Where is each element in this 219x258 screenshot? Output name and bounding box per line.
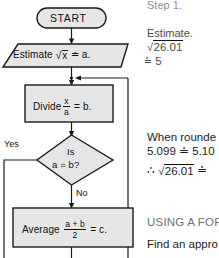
node-start-label: START — [50, 13, 86, 24]
node-divide-label: Dividexa = b. — [33, 97, 92, 117]
node-decision-right: b? — [69, 159, 80, 170]
node-estimate-label: Estimate √x ≐ a. — [13, 50, 90, 61]
worked-example-step-action: Estimate. — [147, 27, 193, 39]
node-estimate-prefix: Estimate — [13, 49, 53, 60]
node-decision-line2: a = b? — [52, 160, 79, 170]
node-average-result: c. — [99, 224, 107, 235]
node-average-numerator: a + b — [64, 220, 86, 229]
section-heading-using-a-formula: USING A FOR — [147, 216, 219, 228]
node-average-label: Average a + b2 = c. — [22, 220, 107, 240]
node-divide-denominator: a — [63, 108, 70, 117]
worked-example-conclusion-radicand: 26.01 — [164, 164, 194, 177]
node-divide-fraction: xa — [63, 97, 70, 117]
node-average-prefix: Average — [22, 224, 60, 235]
node-average-fraction: a + b2 — [64, 220, 86, 240]
worked-example-rounding-line: 5.099 ≐ 5.10 — [147, 145, 215, 157]
section-body-find-approximation: Find an appro — [147, 238, 218, 250]
worked-example-expression: √26.01 — [147, 40, 183, 53]
node-decision-line1: Is — [67, 147, 75, 157]
worked-example-radicand: 26.01 — [153, 40, 183, 53]
worked-example-step-heading: Step 1. — [147, 0, 182, 11]
node-divide-numerator: x — [63, 97, 70, 106]
worked-example-approximation: ≐ 5 — [145, 55, 162, 67]
worked-example-column: Step 1. Estimate. √26.01 ≐ 5 When rounde… — [145, 0, 219, 258]
branch-label-yes: Yes — [4, 139, 19, 149]
worked-example-radical: √26.01 — [147, 40, 183, 53]
node-estimate-radicand: x — [62, 50, 68, 61]
worked-example-conclusion: ∴ √26.01 ≐ — [147, 164, 207, 177]
node-estimate-approx-symbol: ≐ — [71, 49, 79, 60]
node-average-denominator: 2 — [64, 231, 86, 240]
node-estimate-result: a. — [82, 49, 91, 60]
worked-example-rounding-note: When rounde — [147, 131, 216, 143]
node-estimate-radical: √x — [56, 50, 68, 61]
worked-example-conclusion-radical: √26.01 — [158, 164, 194, 177]
worked-example-conclusion-approx: ≐ — [197, 164, 207, 176]
flowchart-page: START Estimate √x ≐ a. Dividexa = b. Is … — [0, 0, 219, 258]
node-divide-result: b. — [83, 101, 92, 112]
node-divide-prefix: Divide — [33, 101, 61, 112]
branch-label-no: No — [76, 188, 88, 198]
therefore-icon: ∴ — [147, 164, 155, 176]
